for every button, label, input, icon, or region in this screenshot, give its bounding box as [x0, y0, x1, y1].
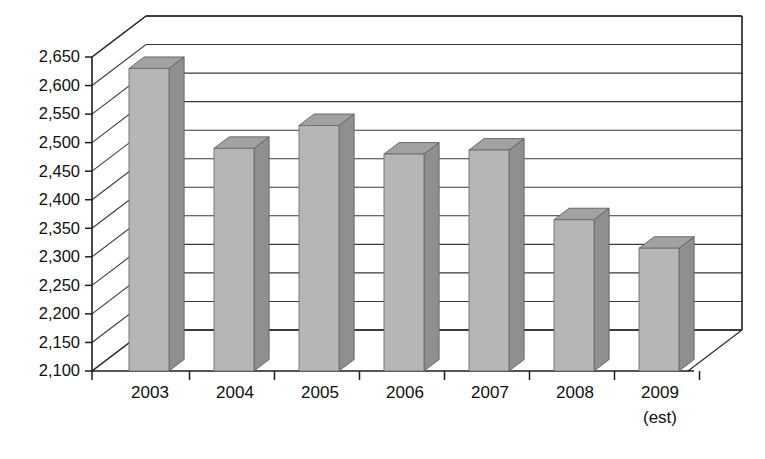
x-tick-label-2007: 2007: [471, 383, 509, 402]
x-tick-sublabel-2009: (est): [643, 408, 677, 427]
y-tick-label: 2,100: [39, 361, 80, 379]
bar-2008: [554, 208, 609, 371]
x-tick-label-2004: 2004: [216, 383, 254, 402]
bar-side-face: [679, 237, 694, 371]
y-tick-label: 2,300: [39, 247, 80, 265]
y-tick-label: 2,550: [39, 104, 80, 122]
y-tick-label: 2,250: [39, 276, 80, 294]
x-tick-label-2006: 2006: [386, 383, 424, 402]
bar-side-face: [339, 114, 354, 371]
bar-side-face: [509, 139, 524, 371]
bar-2005: [299, 114, 354, 371]
bar-side-face: [594, 208, 609, 371]
x-tick-label-2005: 2005: [301, 383, 339, 402]
y-tick-label: 2,650: [39, 47, 80, 65]
y-tick-label: 2,150: [39, 333, 80, 351]
bar-front-face: [384, 154, 424, 371]
bar-front-face: [554, 220, 594, 371]
x-axis-tick-labels: 2003200420052006200720082009(est): [131, 383, 679, 427]
bar-2009: [639, 237, 694, 371]
bar-2003: [129, 57, 184, 371]
chart-canvas: 2,6502,6002,5502,5002,4502,4002,3502,300…: [0, 0, 765, 459]
bar-front-face: [214, 148, 254, 371]
x-tick-label-2008: 2008: [556, 383, 594, 402]
bar-front-face: [129, 68, 169, 371]
y-tick-label: 2,500: [39, 133, 80, 151]
bar-front-face: [469, 150, 509, 371]
y-tick-label: 2,450: [39, 162, 80, 180]
y-axis-tick-labels: 2,6502,6002,5502,5002,4502,4002,3502,300…: [39, 47, 80, 379]
y-tick-label: 2,200: [39, 304, 80, 322]
bar-2006: [384, 143, 439, 371]
bar-side-face: [169, 57, 184, 371]
y-tick-label: 2,400: [39, 190, 80, 208]
bar-front-face: [299, 126, 339, 371]
bar-2004: [214, 137, 269, 371]
y-tick-label: 2,350: [39, 219, 80, 237]
bar-side-face: [424, 143, 439, 371]
bar-front-face: [639, 248, 679, 371]
x-tick-label-2009: 2009: [641, 383, 679, 402]
bar-2007: [469, 139, 524, 371]
y-tick-label: 2,600: [39, 76, 80, 94]
bar-chart-figure: 2,6502,6002,5502,5002,4502,4002,3502,300…: [0, 0, 765, 459]
x-tick-label-2003: 2003: [131, 383, 169, 402]
bar-side-face: [254, 137, 269, 371]
